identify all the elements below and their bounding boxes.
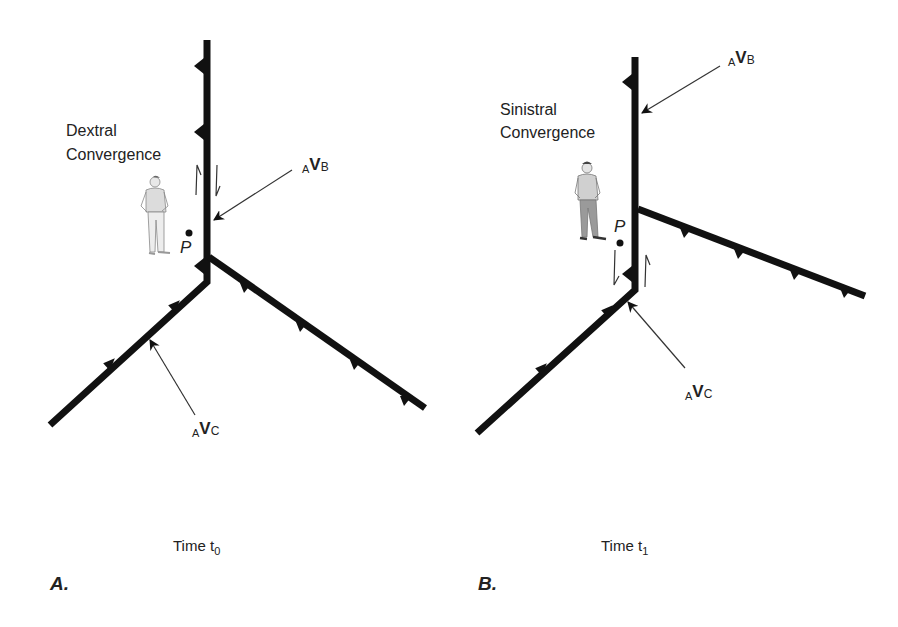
panel-letter-b: B. (478, 573, 497, 594)
fault-right-branch-a (209, 257, 425, 408)
half-arrow-down-icon (614, 250, 619, 285)
vb-arrow-a (214, 170, 292, 220)
subduction-teeth-left-branch-a (103, 297, 184, 370)
point-p-marker-b (617, 240, 624, 247)
vc-label-b: AVC (685, 382, 713, 402)
vb-label-b: AVB (728, 48, 755, 68)
vc-arrow-a (150, 340, 195, 415)
panel-title-line2-b: Convergence (500, 124, 595, 141)
observer-figure-icon-b (575, 162, 606, 240)
point-p-label-b: P (614, 217, 626, 236)
panel-title-line1-a: Dextral (66, 122, 117, 139)
panel-title-line2-a: Convergence (66, 146, 161, 163)
triple-junction-diagram: Dextral Convergence P AVB AVC Time t0 A. (0, 0, 898, 627)
vc-label-a: AVC (192, 419, 220, 439)
fault-vertical-a (50, 40, 207, 425)
panel-letter-a: A. (49, 573, 69, 594)
panel-b: Sinistral Convergence P AVB AVC Time t1 … (477, 48, 865, 594)
subduction-teeth-vertical-a (194, 58, 204, 274)
fault-traces-a (50, 40, 425, 425)
point-p-label-a: P (180, 238, 192, 257)
vc-arrow-b (628, 302, 685, 368)
panel-title-line1-b: Sinistral (500, 101, 557, 118)
half-arrow-up-icon (645, 255, 650, 287)
time-label-a: Time t0 (173, 537, 220, 557)
fault-right-branch-b (638, 209, 865, 296)
half-arrow-down-icon (216, 165, 220, 196)
vb-arrow-b (642, 66, 720, 113)
observer-figure-icon-a (141, 176, 170, 254)
subduction-teeth-right-branch-a (240, 283, 412, 406)
point-p-marker-a (186, 230, 193, 237)
subduction-teeth-vertical-b (622, 74, 632, 282)
time-label-b: Time t1 (601, 537, 648, 557)
vb-label-a: AVB (302, 155, 329, 175)
panel-a: Dextral Convergence P AVB AVC Time t0 A. (49, 40, 425, 594)
half-arrow-up-icon (196, 165, 201, 195)
